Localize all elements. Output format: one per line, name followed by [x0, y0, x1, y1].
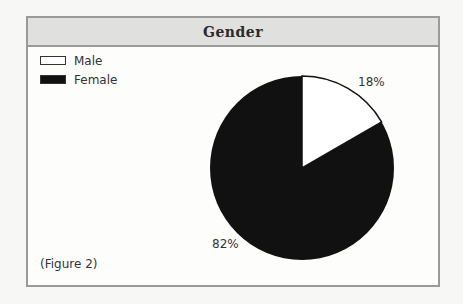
pie-chart: 18% 82% [0, 0, 463, 304]
pct-label-male: 18% [358, 75, 385, 89]
pct-label-female: 82% [212, 237, 239, 251]
